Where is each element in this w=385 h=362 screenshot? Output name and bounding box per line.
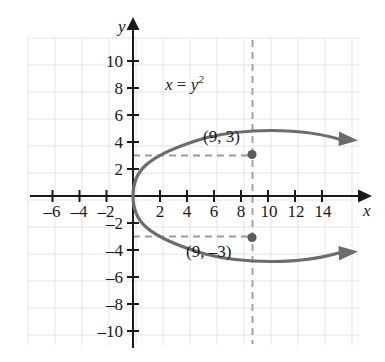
x-tick-label-10: 10 — [261, 203, 278, 220]
x-tick-label--6: –6 — [44, 203, 61, 220]
curve-lower-arrowhead — [339, 246, 359, 261]
y-tick-label-4: 4 — [115, 134, 124, 151]
x-tick-label-2: 2 — [156, 203, 165, 220]
y-axis-label: y — [118, 18, 126, 35]
x-tick-label-12: 12 — [288, 203, 305, 220]
point-label-9-3: (9, 3) — [203, 128, 240, 145]
y-tick-label-2: 2 — [115, 161, 124, 178]
y-tick-label--8: –8 — [106, 296, 123, 313]
y-tick-label-6: 6 — [115, 107, 124, 124]
y-tick-label--10: –10 — [98, 323, 124, 340]
x-tick-label-6: 6 — [210, 203, 219, 220]
x-tick-label-14: 14 — [315, 203, 332, 220]
x-tick-label--4: –4 — [71, 203, 88, 220]
y-tick-label--4: –4 — [106, 242, 123, 259]
data-point-9-3 — [247, 150, 256, 159]
equation-operator: = — [173, 75, 191, 94]
equation-lhs: x — [165, 75, 173, 94]
y-axis-arrowhead — [127, 17, 140, 30]
x-axis-label: x — [363, 202, 371, 219]
y-tick-label-8: 8 — [115, 80, 124, 97]
y-tick-label-10: 10 — [106, 53, 123, 70]
curve-upper-arrowhead — [339, 132, 359, 147]
x-tick-label-8: 8 — [237, 203, 246, 220]
y-tick-label--2: –2 — [106, 215, 123, 232]
data-point-9-neg3 — [247, 233, 256, 242]
equation-rhs-exponent: 2 — [198, 73, 204, 85]
y-tick-label--6: –6 — [106, 269, 123, 286]
plot-canvas — [0, 0, 385, 362]
parabola-graph-figure: x = y2 (9, 3) (9, –3) x y –6 –4 –2 2 4 6… — [0, 0, 385, 362]
equation-label: x = y2 — [165, 74, 204, 93]
point-label-9-neg3: (9, –3) — [186, 243, 231, 260]
x-tick-label-4: 4 — [183, 203, 192, 220]
